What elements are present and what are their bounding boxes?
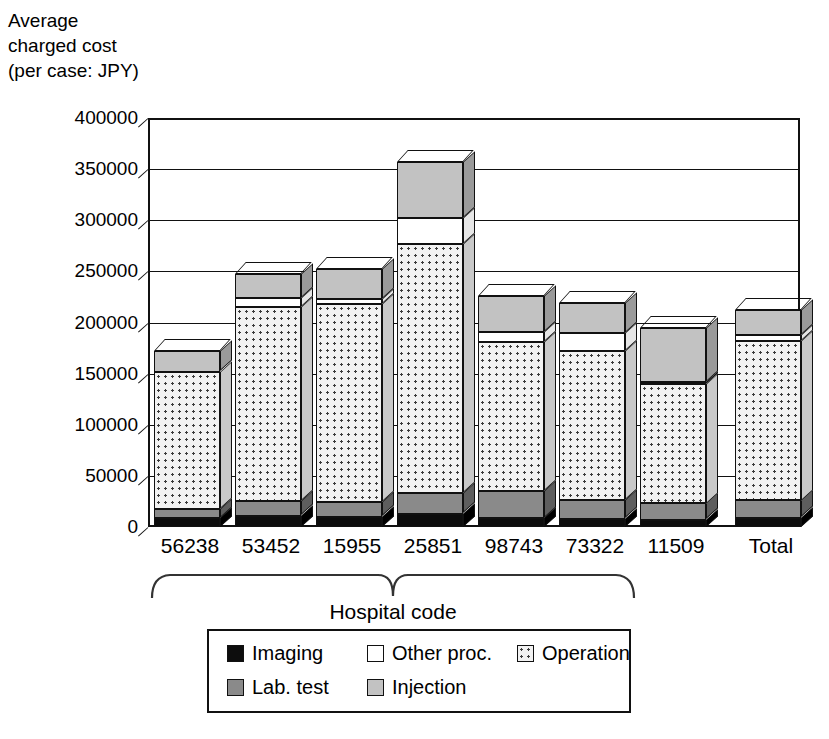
y-axis-title: Average charged cost (per case: JPY) <box>8 8 139 83</box>
x-tick-25851: 25851 <box>404 534 462 558</box>
segment-operation[interactable] <box>735 341 801 501</box>
bar-Total[interactable] <box>735 310 801 527</box>
legend-item-other[interactable]: Other proc. <box>367 642 492 665</box>
legend-item-operation[interactable]: Operation <box>517 642 630 665</box>
legend-label: Other proc. <box>392 642 492 665</box>
segment-other[interactable] <box>316 299 382 304</box>
legend-item-lab[interactable]: Lab. test <box>227 676 329 699</box>
segment-injection[interactable] <box>640 328 706 382</box>
y-axis-tick <box>138 169 148 178</box>
y-tick-0: 0 <box>127 516 138 538</box>
segment-other[interactable] <box>640 382 706 384</box>
segment-imaging[interactable] <box>478 518 544 527</box>
segment-injection[interactable] <box>235 274 301 298</box>
segment-injection[interactable] <box>735 310 801 335</box>
bar-73322[interactable] <box>559 303 625 527</box>
segment-injection[interactable] <box>478 296 544 332</box>
x-tick-53452: 53452 <box>242 534 300 558</box>
legend-swatch-other <box>367 645 384 662</box>
legend-item-injection[interactable]: Injection <box>367 676 467 699</box>
segment-imaging[interactable] <box>559 519 625 527</box>
segment-lab[interactable] <box>735 500 801 517</box>
x-tick-73322: 73322 <box>566 534 624 558</box>
bar-top-face <box>640 316 717 328</box>
legend-item-imaging[interactable]: Imaging <box>227 642 323 665</box>
segment-other[interactable] <box>735 335 801 341</box>
segment-imaging[interactable] <box>735 518 801 527</box>
x-tick-15955: 15955 <box>323 534 381 558</box>
segment-depth-operation <box>625 340 637 500</box>
legend-swatch-lab <box>227 679 244 696</box>
bar-top-face <box>235 262 312 274</box>
segment-imaging[interactable] <box>316 517 382 527</box>
y-tick-200000: 200000 <box>75 312 138 334</box>
segment-injection[interactable] <box>397 162 463 218</box>
segment-operation[interactable] <box>640 384 706 504</box>
legend-label: Imaging <box>252 642 323 665</box>
x-tick-98743: 98743 <box>485 534 543 558</box>
segment-other[interactable] <box>235 298 301 307</box>
segment-imaging[interactable] <box>640 520 706 527</box>
bar-top-face <box>559 291 636 303</box>
segment-imaging[interactable] <box>235 516 301 527</box>
segment-depth-operation <box>382 293 394 502</box>
bar-98743[interactable] <box>478 296 544 527</box>
segment-depth-operation <box>706 373 718 503</box>
bar-top-face <box>316 257 393 269</box>
bar-top-face <box>154 339 231 351</box>
segment-depth-operation <box>301 296 313 501</box>
y-axis-tick <box>138 272 148 281</box>
segment-other[interactable] <box>397 218 463 244</box>
segment-operation[interactable] <box>559 351 625 500</box>
segment-depth-operation <box>544 331 556 491</box>
segment-lab[interactable] <box>478 491 544 518</box>
segment-imaging[interactable] <box>397 514 463 527</box>
segment-lab[interactable] <box>397 493 463 513</box>
segment-depth-injection <box>463 151 475 218</box>
legend-row-2: Lab. testInjection <box>209 676 629 706</box>
legend-swatch-imaging <box>227 645 244 662</box>
bar-25851[interactable] <box>397 162 463 527</box>
gridline <box>148 118 800 119</box>
segment-other[interactable] <box>559 333 625 351</box>
segment-depth-operation <box>801 330 813 500</box>
group-brace <box>150 572 636 598</box>
y-tick-400000: 400000 <box>75 107 138 129</box>
legend-swatch-injection <box>367 679 384 696</box>
bar-11509[interactable] <box>640 328 706 527</box>
segment-other[interactable] <box>478 332 544 342</box>
bar-15955[interactable] <box>316 269 382 527</box>
segment-depth-injection <box>706 317 718 382</box>
segment-injection[interactable] <box>154 351 220 371</box>
segment-lab[interactable] <box>316 502 382 516</box>
segment-lab[interactable] <box>640 503 706 519</box>
x-tick-56238: 56238 <box>161 534 219 558</box>
legend-row-1: ImagingOther proc.Operation <box>209 642 629 672</box>
y-axis-tick <box>138 374 148 383</box>
legend-label: Operation <box>542 642 630 665</box>
segment-injection[interactable] <box>559 303 625 333</box>
x-tick-Total: Total <box>749 534 793 558</box>
group-label: Hospital code <box>329 600 456 624</box>
bar-56238[interactable] <box>154 351 220 527</box>
x-tick-11509: 11509 <box>648 534 705 558</box>
bar-53452[interactable] <box>235 274 301 527</box>
y-tick-150000: 150000 <box>75 363 138 385</box>
segment-operation[interactable] <box>397 244 463 493</box>
segment-operation[interactable] <box>316 304 382 502</box>
segment-lab[interactable] <box>235 501 301 515</box>
y-tick-250000: 250000 <box>75 260 138 282</box>
bar-top-face <box>735 298 812 310</box>
segment-injection[interactable] <box>316 269 382 299</box>
segment-lab[interactable] <box>559 500 625 518</box>
segment-operation[interactable] <box>154 372 220 509</box>
y-tick-300000: 300000 <box>75 209 138 231</box>
bar-top-face <box>478 284 555 296</box>
y-axis-tick <box>138 220 148 229</box>
segment-operation[interactable] <box>235 307 301 501</box>
segment-operation[interactable] <box>478 342 544 491</box>
segment-imaging[interactable] <box>154 518 220 527</box>
chart-legend: ImagingOther proc.Operation Lab. testInj… <box>207 629 631 713</box>
segment-depth-operation <box>463 233 475 493</box>
segment-lab[interactable] <box>154 509 220 518</box>
